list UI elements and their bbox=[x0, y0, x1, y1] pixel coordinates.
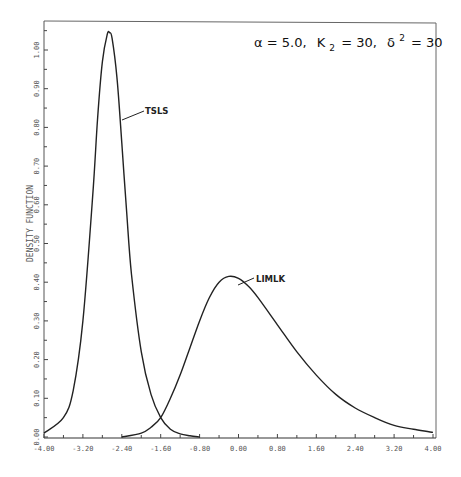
x-tick-label: -0.80 bbox=[189, 445, 210, 453]
x-axis: -4.00-3.20-2.40-1.60-0.800.000.801.602.4… bbox=[33, 434, 441, 453]
x-tick-label: 3.20 bbox=[386, 445, 403, 453]
x-tick-label: -3.20 bbox=[72, 445, 93, 453]
y-tick-label: 0.80 bbox=[33, 119, 41, 136]
tsls-curve bbox=[44, 31, 200, 437]
density-chart: -4.00-3.20-2.40-1.60-0.800.000.801.602.4… bbox=[0, 0, 461, 477]
y-tick-label: 0.20 bbox=[33, 351, 41, 368]
tsls-annotation: TSLS bbox=[122, 106, 168, 120]
y-axis: 0.000.100.200.300.400.500.600.700.800.90… bbox=[33, 31, 48, 446]
chart-title: α = 5.0, K 2 = 30, δ 2 = 30 bbox=[254, 29, 443, 54]
x-tick-label: 0.80 bbox=[269, 445, 286, 453]
x-tick-label: -1.60 bbox=[150, 445, 171, 453]
y-tick-label: 0.00 bbox=[33, 429, 41, 446]
y-tick-label: 0.90 bbox=[33, 80, 41, 97]
x-tick-label: 2.40 bbox=[347, 445, 364, 453]
y-tick-label: 1.00 bbox=[33, 42, 41, 59]
y-tick-label: 0.40 bbox=[33, 274, 41, 291]
limlk-curve bbox=[122, 276, 433, 437]
y-tick-label: 0.10 bbox=[33, 390, 41, 407]
svg-text:LIMLK: LIMLK bbox=[256, 274, 285, 284]
x-tick-label: 1.60 bbox=[308, 445, 325, 453]
y-tick-label: 0.30 bbox=[33, 312, 41, 329]
title-alpha: α = 5.0, bbox=[254, 35, 307, 50]
svg-text:TSLS: TSLS bbox=[145, 106, 168, 116]
plot-frame bbox=[44, 21, 436, 438]
x-tick-label: 0.00 bbox=[230, 445, 247, 453]
y-axis-label: DENSITY FUNCTION bbox=[26, 185, 35, 262]
x-tick-label: -2.40 bbox=[111, 445, 132, 453]
y-tick-label: 0.70 bbox=[33, 158, 41, 175]
x-tick-label: 4.00 bbox=[425, 445, 442, 453]
svg-text:α = 5.0, K 2: α = 5.0, K 2 = 30, δ 2 = 30 bbox=[254, 29, 443, 54]
